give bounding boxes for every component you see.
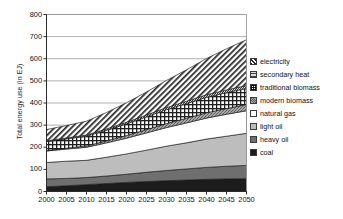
legend-item-label: traditional biomass (260, 84, 320, 91)
legend-item-label: modern biomass (260, 97, 313, 104)
legend-item[interactable]: light oil (250, 120, 342, 133)
area-series-group (47, 40, 247, 192)
speckle-gray-swatch-icon (250, 97, 257, 104)
dark-swatch-icon (250, 149, 257, 156)
stacked-area-chart: Total energy use (in EJ) 010020030040050… (0, 0, 343, 219)
legend-item[interactable]: electricity (250, 55, 342, 68)
dotted-gray-swatch-icon (250, 71, 257, 78)
y-axis-tick-label: 100 (18, 165, 42, 172)
chart-legend: electricitysecondary heattraditional bio… (250, 55, 342, 159)
legend-item[interactable]: natural gas (250, 107, 342, 120)
grid-check-swatch-icon (250, 84, 257, 91)
y-axis-tick-label: 200 (18, 143, 42, 150)
y-axis-tick-label: 600 (18, 55, 42, 62)
legend-item[interactable]: secondary heat (250, 68, 342, 81)
x-axis-tick-label: 2050 (232, 196, 262, 203)
legend-item-label: natural gas (260, 110, 296, 117)
legend-item[interactable]: modern biomass (250, 94, 342, 107)
y-axis-tick-label: 800 (18, 11, 42, 18)
y-axis-tick-label: 400 (18, 99, 42, 106)
y-axis-tick-label: 700 (18, 33, 42, 40)
legend-item-label: electricity (260, 58, 290, 65)
y-axis-tick-labels: 0100200300400500600700800 (14, 0, 42, 219)
light-gray-swatch-icon (250, 123, 257, 130)
legend-item-label: light oil (260, 123, 282, 130)
legend-item[interactable]: heavy oil (250, 133, 342, 146)
y-axis-tick-label: 500 (18, 77, 42, 84)
mid-gray-swatch-icon (250, 136, 257, 143)
legend-item-label: heavy oil (260, 136, 288, 143)
diagonal-hatch-swatch-icon (250, 58, 257, 65)
legend-item[interactable]: traditional biomass (250, 81, 342, 94)
y-axis-tick-label: 300 (18, 121, 42, 128)
white-swatch-icon (250, 110, 257, 117)
legend-item[interactable]: coal (250, 146, 342, 159)
y-axis-tick-label: 0 (18, 188, 42, 195)
legend-item-label: coal (260, 149, 273, 156)
legend-item-label: secondary heat (260, 71, 309, 78)
